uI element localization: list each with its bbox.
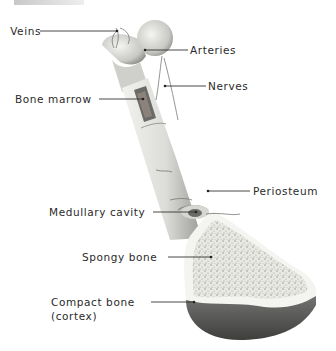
label-compact-bone: Compact bone <box>51 296 135 308</box>
label-periosteum: Periosteum <box>253 185 318 197</box>
label-bone-marrow: Bone marrow <box>15 93 92 105</box>
femur-distal-cross-section <box>181 205 316 340</box>
label-arteries: Arteries <box>190 44 236 56</box>
label-spongy-bone: Spongy bone <box>82 251 157 263</box>
label-compact-bone-cortex: (cortex) <box>51 310 97 322</box>
label-nerves: Nerves <box>208 80 248 92</box>
label-veins: Veins <box>10 25 41 37</box>
label-medullary-cavity: Medullary cavity <box>49 206 145 218</box>
